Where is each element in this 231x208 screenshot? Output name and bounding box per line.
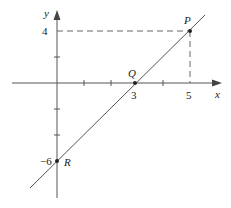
point-label-p: P — [183, 14, 191, 26]
point-p — [188, 29, 192, 33]
x-axis-arrow-icon — [212, 80, 222, 87]
y-axis-arrow-icon — [54, 10, 61, 20]
coordinate-diagram: y x 4 3 5 −6 P Q R — [0, 0, 231, 208]
y-axis-label: y — [43, 7, 49, 19]
point-r — [55, 159, 59, 163]
tick-label-x-5: 5 — [186, 89, 192, 101]
tick-label-y-4: 4 — [42, 25, 48, 37]
tick-label-y-neg6: −6 — [40, 155, 52, 167]
point-q — [133, 81, 137, 85]
tick-label-x-3: 3 — [131, 89, 137, 101]
x-axis-label: x — [214, 88, 220, 100]
point-label-r: R — [63, 156, 71, 168]
point-label-q: Q — [128, 67, 136, 79]
